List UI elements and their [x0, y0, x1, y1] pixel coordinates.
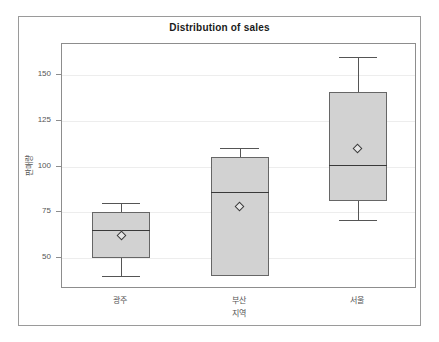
- y-axis-tick-label: 75: [23, 206, 51, 215]
- y-axis-tick-label: 100: [23, 161, 51, 170]
- chart-title: Distribution of sales: [19, 22, 420, 33]
- chart-screenshot: Distribution of sales 판매량 5075100125150 …: [0, 0, 439, 342]
- upper-whisker-stem: [358, 57, 359, 92]
- y-axis-tick-label: 150: [23, 69, 51, 78]
- plot-inner: [62, 44, 415, 287]
- plot-area: [61, 43, 416, 288]
- lower-whisker-cap: [339, 220, 378, 221]
- x-axis-tick-label: 서울: [317, 294, 397, 305]
- y-axis-tick-label: 125: [23, 115, 51, 124]
- box-plot-item: [62, 44, 415, 287]
- x-axis-title: 지역: [61, 307, 416, 318]
- lower-whisker-stem: [358, 201, 359, 219]
- median-line: [329, 165, 387, 166]
- y-axis-tick-label: 50: [23, 252, 51, 261]
- graph-outer-frame: Distribution of sales 판매량 5075100125150 …: [18, 16, 421, 326]
- x-axis-tick-label: 광주: [80, 294, 160, 305]
- x-axis-tick-label: 부산: [199, 294, 279, 305]
- upper-whisker-cap: [339, 57, 378, 58]
